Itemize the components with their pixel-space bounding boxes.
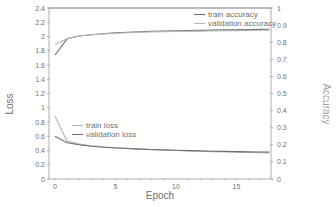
y-tick-label: 2.2 [35, 19, 45, 26]
y2-tick-label: 1 [277, 5, 281, 12]
legend-label: validation accuracy [208, 19, 276, 28]
y-tick-label: 1.2 [35, 90, 45, 97]
y-tick-label: 0.6 [35, 133, 45, 140]
y-tick-label: 1 [41, 104, 45, 111]
x-tick-label: 15 [233, 183, 241, 190]
axes: 00.20.40.60.811.21.41.61.822.22.400.10.2… [35, 5, 287, 191]
train-accuracy-line [55, 29, 269, 55]
y2-tick-label: 0.5 [277, 90, 287, 97]
y2-tick-label: 0.8 [277, 39, 287, 46]
validation-accuracy-line [55, 30, 269, 45]
y-tick-label: 0.4 [35, 147, 45, 154]
y-tick-label: 1.4 [35, 76, 45, 83]
y-tick-label: 0 [41, 176, 45, 183]
y2-tick-label: 0.1 [277, 158, 287, 165]
y-axis-label-loss: Loss [4, 93, 15, 114]
y-tick-label: 1.8 [35, 47, 45, 54]
x-tick-label: 10 [172, 183, 180, 190]
legend-label: validation loss [86, 130, 136, 139]
y-tick-label: 2.4 [35, 5, 45, 12]
y2-tick-label: 0.9 [277, 22, 287, 29]
x-axis-label: Epoch [146, 190, 174, 201]
y-tick-label: 1.6 [35, 62, 45, 69]
loss-accuracy-chart: 00.20.40.60.811.21.41.61.822.22.400.10.2… [0, 0, 336, 207]
y-tick-label: 2 [41, 33, 45, 40]
y2-tick-label: 0.4 [277, 107, 287, 114]
y-axis-label-accuracy: Accuracy [321, 83, 332, 124]
chart-canvas: 00.20.40.60.811.21.41.61.822.22.400.10.2… [0, 0, 336, 207]
y2-tick-label: 0.7 [277, 56, 287, 63]
legend-label: train accuracy [208, 10, 258, 19]
legend-label: train loss [86, 121, 118, 130]
y-tick-label: 0.2 [35, 161, 45, 168]
y2-tick-label: 0 [277, 176, 281, 183]
y2-tick-label: 0.6 [277, 73, 287, 80]
y2-tick-label: 0.3 [277, 124, 287, 131]
y-tick-label: 0.8 [35, 119, 45, 126]
x-tick-label: 5 [114, 183, 118, 190]
y2-tick-label: 0.2 [277, 141, 287, 148]
x-tick-label: 0 [53, 183, 57, 190]
